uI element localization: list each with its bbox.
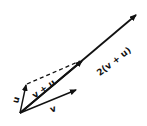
- vector-diagram-canvas: u v v + u 2(v + u): [0, 0, 147, 126]
- vector-v: [20, 90, 76, 113]
- label-2-v-plus-u: 2(v + u): [95, 45, 133, 78]
- vector-diagram: u v v + u 2(v + u): [0, 0, 147, 126]
- label-v: v: [48, 103, 57, 114]
- label-u: u: [10, 95, 21, 104]
